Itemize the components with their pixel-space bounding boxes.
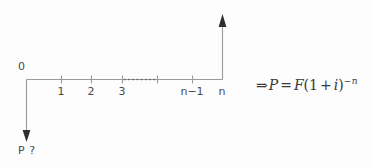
formula-plus: +	[318, 77, 334, 93]
formula-p: P	[269, 77, 278, 93]
formula-one: 1	[309, 77, 318, 93]
formula-equals: =	[278, 77, 294, 93]
tick-label-1: 1	[58, 86, 65, 98]
formula-expression: ⇒P=F(1+i)−n	[256, 73, 358, 93]
implies-icon: ⇒	[256, 77, 269, 93]
formula-f: F	[294, 77, 304, 93]
formula-exponent-n: n	[352, 76, 358, 86]
tick-label-3: 3	[119, 86, 126, 98]
tick-label-2: 2	[88, 86, 95, 98]
present-worth-arrow-head	[23, 130, 31, 142]
tick-label-n-minus-1: n−1	[180, 86, 203, 98]
figure-canvas: 0 1 2 3 n−1 n P ? ⇒P=F(1+i)−n	[0, 0, 371, 168]
formula-exponent: −n	[344, 76, 358, 86]
future-worth-arrow-head	[219, 14, 227, 27]
origin-label: 0	[18, 61, 25, 73]
tick-label-n: n	[219, 86, 226, 98]
formula-exponent-sign: −	[344, 76, 352, 86]
present-worth-label: P ?	[18, 145, 35, 157]
